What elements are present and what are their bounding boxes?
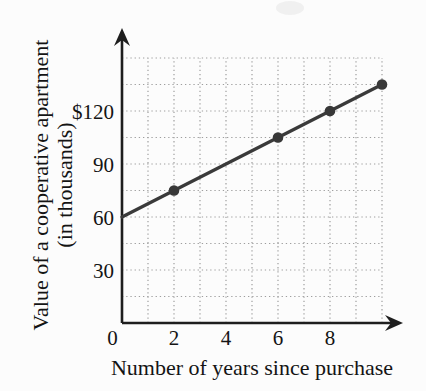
x-tick-label: 0 — [107, 326, 118, 350]
tick-labels: 306090$12002468 — [72, 100, 335, 351]
y-tick-label: 30 — [93, 259, 114, 283]
axes — [122, 38, 394, 323]
y-axis-title-line2: (in thousands) — [52, 15, 78, 355]
data-point-marker — [377, 79, 388, 90]
x-axis-title: Number of years since purchase — [92, 355, 412, 381]
y-axis-title-line1: Value of a cooperative apartment — [28, 15, 54, 355]
gridlines — [122, 58, 382, 323]
x-tick-label: 2 — [169, 326, 180, 350]
x-tick-label: 8 — [325, 326, 336, 350]
x-tick-label: 6 — [273, 326, 284, 350]
data-point-marker — [169, 185, 180, 196]
data-point-marker — [325, 106, 336, 117]
data-point-marker — [273, 132, 284, 143]
y-tick-label: $120 — [72, 100, 114, 124]
y-tick-label: 90 — [93, 153, 114, 177]
figure: 306090$12002468 Value of a cooperative a… — [0, 0, 426, 391]
y-tick-label: 60 — [93, 206, 114, 230]
x-tick-label: 4 — [221, 326, 232, 350]
scan-smudge — [276, 1, 304, 15]
